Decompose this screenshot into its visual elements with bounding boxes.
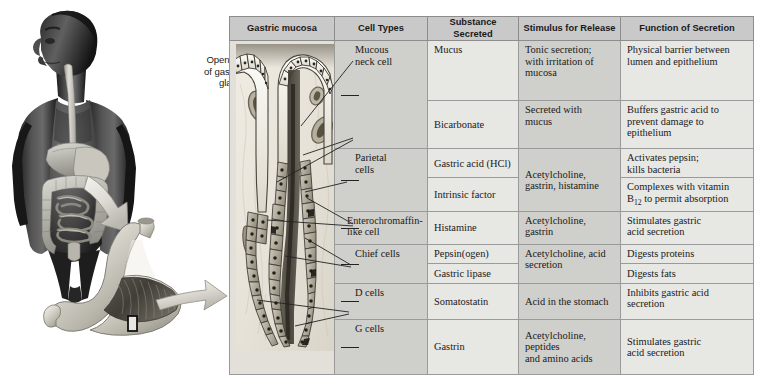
substance-gastric-lipase: Gastric lipase — [428, 263, 519, 283]
stimulus-text: Secreted with mucus — [525, 104, 582, 127]
substance-histamine: Histamine — [428, 211, 519, 244]
stimulus-text: Acetylcholine, acid secretion — [525, 248, 606, 271]
function-text-line2: B12 to permit absorption — [627, 193, 728, 204]
substance-somatostatin: Somatostatin — [428, 283, 519, 319]
cell-type-label-line1: Enterochromaffin- — [347, 215, 423, 226]
substance-pepsinogen: Pepsin(ogen) — [428, 244, 519, 263]
function-text: Buffers gastric acid to prevent damage t… — [627, 104, 719, 138]
gastric-gland-histology-image — [230, 41, 335, 374]
function-text-line1: Complexes with vitamin — [627, 181, 729, 192]
function-text: Stimulates gastric acid secretion — [627, 336, 701, 359]
cell-type-label-line1: Chief cells — [355, 248, 400, 259]
cell-type-leader-dash — [341, 301, 359, 302]
cell-type-label-line1: Mucous — [355, 44, 388, 55]
function-text: Digests fats — [627, 268, 676, 279]
substance-gastric-acid: Gastric acid (HCl) — [428, 149, 519, 178]
substance-text: Gastric lipase — [434, 268, 491, 279]
function-gastrin: Stimulates gastric acid secretion — [621, 319, 754, 374]
column-header-gastric-mucosa: Gastric mucosa — [230, 17, 335, 41]
stimulus-histamine: Acetylcholine, gastrin — [519, 211, 621, 244]
function-text: Activates pepsin; kills bacteria — [627, 152, 699, 175]
substance-text: Bicarbonate — [434, 119, 484, 130]
cell-type-mucous-neck-cell: Mucous neck cell — [335, 41, 428, 149]
stimulus-text: Tonic secretion; with irritation of muco… — [525, 44, 594, 78]
column-header-substance-secreted: Substance Secreted — [428, 17, 519, 41]
cell-type-g-cells: G cells — [335, 319, 428, 374]
cell-type-label-line1: Parietal — [355, 152, 387, 163]
column-header-stimulus-for-release: Stimulus for Release — [519, 17, 621, 41]
function-text: Inhibits gastric acid secretion — [627, 287, 709, 310]
b12-subscript: 12 — [634, 198, 642, 207]
cell-type-leader-dash — [341, 264, 359, 265]
substance-text: Histamine — [434, 222, 477, 233]
stimulus-chief-cells: Acetylcholine, acid secretion — [519, 244, 621, 283]
substance-text: Gastrin — [434, 341, 465, 352]
column-header-function-of-secretion: Function of Secretion — [621, 17, 754, 41]
stimulus-text: Acetylcholine, gastrin — [525, 215, 586, 238]
cell-type-d-cells: D cells — [335, 283, 428, 319]
cell-type-label-line2: cells — [355, 164, 374, 175]
function-histamine: Stimulates gastric acid secretion — [621, 211, 754, 244]
table-header-row: Gastric mucosa Cell Types Substance Secr… — [230, 17, 754, 41]
stimulus-gastrin: Acetylcholine, peptides and amino acids — [519, 319, 621, 374]
stimulus-text: Acetylcholine, gastrin, histamine — [525, 169, 599, 192]
table-row: Mucous neck cell Mucus Tonic secretion; … — [230, 41, 754, 101]
function-gastric-acid: Activates pepsin; kills bacteria — [621, 149, 754, 178]
substance-text: Pepsin(ogen) — [434, 248, 489, 259]
cell-type-leader-dash — [341, 95, 359, 96]
cell-type-label-line2: neck cell — [355, 56, 392, 67]
function-intrinsic-factor: Complexes with vitamin B12 to permit abs… — [621, 178, 754, 211]
stimulus-bicarbonate: Secreted with mucus — [519, 101, 621, 149]
stimulus-parietal: Acetylcholine, gastrin, histamine — [519, 149, 621, 211]
substance-bicarbonate: Bicarbonate — [428, 101, 519, 149]
function-text: Stimulates gastric acid secretion — [627, 215, 701, 238]
function-gastric-lipase: Digests fats — [621, 263, 754, 283]
cell-type-label-line1: D cells — [355, 287, 384, 298]
cell-type-label-line1: G cells — [355, 323, 384, 334]
substance-text: Intrinsic factor — [434, 189, 495, 200]
sample-region-box — [128, 316, 137, 331]
function-text: Digests proteins — [627, 248, 694, 259]
substance-mucus: Mucus — [428, 41, 519, 101]
substance-text: Somatostatin — [434, 296, 488, 307]
function-mucus: Physical barrier between lumen and epith… — [621, 41, 754, 101]
cell-type-leader-dash — [341, 180, 359, 181]
cell-type-chief-cells: Chief cells — [335, 244, 428, 283]
substance-intrinsic-factor: Intrinsic factor — [428, 178, 519, 211]
stimulus-text: Acetylcholine, peptides and amino acids — [525, 330, 593, 364]
function-bicarbonate: Buffers gastric acid to prevent damage t… — [621, 101, 754, 149]
column-header-cell-types: Cell Types — [335, 17, 428, 41]
cell-type-enterochromaffin-like-cell: Enterochromaffin- like cell — [335, 211, 428, 244]
cell-type-leader-dash — [341, 347, 359, 348]
gastric-secretions-table: Gastric mucosa Cell Types Substance Secr… — [229, 16, 754, 375]
stimulus-somatostatin: Acid in the stomach — [519, 283, 621, 319]
stimulus-text: Acid in the stomach — [525, 296, 608, 307]
substance-gastrin: Gastrin — [428, 319, 519, 374]
function-pepsinogen: Digests proteins — [621, 244, 754, 263]
cell-type-parietal-cells: Parietal cells — [335, 149, 428, 211]
cell-type-leader-dash — [341, 228, 359, 229]
substance-text: Gastric acid (HCl) — [434, 158, 511, 169]
function-text: Physical barrier between lumen and epith… — [627, 44, 730, 67]
stimulus-mucus: Tonic secretion; with irritation of muco… — [519, 41, 621, 101]
function-somatostatin: Inhibits gastric acid secretion — [621, 283, 754, 319]
